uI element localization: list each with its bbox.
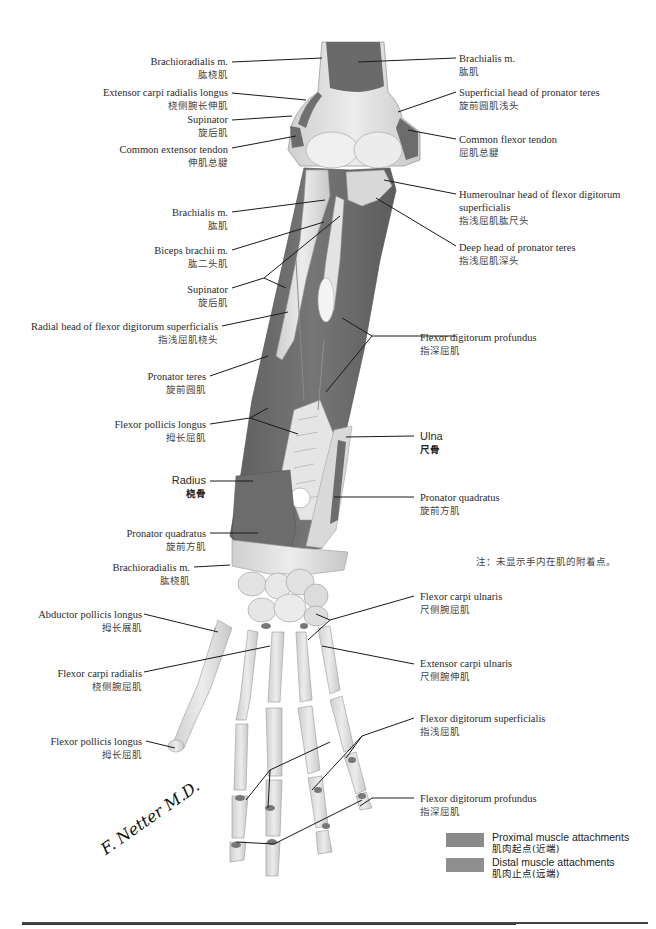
label-zh: 指浅屈肌	[420, 725, 545, 738]
label-en: Brachioradialis m.	[150, 55, 228, 68]
label-zh: 旋前方肌	[420, 504, 500, 517]
label-en: Supinator	[187, 283, 228, 296]
label-pronator-quadratus-right: Pronator quadratus 旋前方肌	[420, 491, 500, 517]
label-zh: 指浅屈肌桡头	[31, 333, 218, 346]
label-extensor-carpi-ulnaris: Extensor carpi ulnaris 尺侧腕伸肌	[420, 657, 512, 683]
label-zh: 伸肌总腱	[120, 156, 229, 169]
label-zh: 拇长屈肌	[114, 431, 206, 444]
label-en: Common flexor tendon	[459, 133, 557, 146]
label-en: Flexor digitorum superficialis	[420, 712, 545, 725]
label-flexor-pollicis-longus-hand: Flexor pollicis longus 拇长屈肌	[50, 735, 142, 761]
label-zh: 屈肌总腱	[459, 146, 557, 159]
label-extensor-carpi-radialis-longus: Extensor carpi radialis longus 桡侧腕长伸肌	[103, 86, 228, 112]
label-common-flexor-tendon: Common flexor tendon 屈肌总腱	[459, 133, 557, 159]
label-radius: Radius 桡骨	[172, 474, 206, 500]
legend-label-en: Proximal muscle attachments	[492, 831, 629, 843]
note-text: 注：未显示手内在肌的附着点。	[476, 554, 616, 568]
label-zh: 指浅屈肌深头	[459, 254, 576, 267]
label-radial-head-fds: Radial head of flexor digitorum superfic…	[31, 320, 218, 346]
label-superficial-head-pronator-teres: Superficial head of pronator teres 旋前圆肌浅…	[459, 86, 600, 112]
label-flexor-pollicis-longus-forearm: Flexor pollicis longus 拇长屈肌	[114, 418, 206, 444]
label-en: Brachialis m.	[459, 52, 515, 65]
label-en: Extensor carpi ulnaris	[420, 657, 512, 670]
label-en: Brachialis m.	[172, 206, 228, 219]
label-en: Radial head of flexor digitorum superfic…	[31, 320, 218, 333]
label-abductor-pollicis-longus: Abductor pollicis longus 拇长展肌	[38, 608, 142, 634]
label-en: Radius	[172, 474, 206, 487]
label-en: Superficial head of pronator teres	[459, 86, 600, 99]
label-humeroulnar-head-fds: Humeroulnar head of flexor digitorum sup…	[459, 188, 621, 227]
label-common-extensor-tendon: Common extensor tendon 伸肌总腱	[120, 143, 229, 169]
label-zh: 尺侧腕屈肌	[420, 603, 502, 616]
label-en: Flexor carpi radialis	[57, 667, 142, 680]
finger-attachment-marks	[231, 757, 366, 848]
label-en: Humeroulnar head of flexor digitorum	[459, 188, 621, 201]
legend-swatch-distal	[446, 858, 484, 872]
label-zh: 旋后肌	[187, 296, 228, 309]
label-deep-head-pronator-teres: Deep head of pronator teres 指浅屈肌深头	[459, 241, 576, 267]
label-en: Abductor pollicis longus	[38, 608, 142, 621]
label-zh: 肱二头肌	[154, 257, 228, 270]
label-biceps-brachii: Biceps brachii m. 肱二头肌	[154, 244, 228, 270]
label-zh: 肱肌	[172, 219, 228, 232]
label-brachialis-upper: Brachialis m. 肱肌	[459, 52, 515, 78]
hand-bones	[168, 620, 372, 876]
label-zh: 拇长展肌	[38, 621, 142, 634]
label-en: Ulna	[420, 430, 443, 443]
label-en: Extensor carpi radialis longus	[103, 86, 228, 99]
label-zh: 指深屈肌	[420, 805, 537, 818]
label-brachioradialis-upper: Brachioradialis m. 肱桡肌	[150, 55, 228, 81]
forearm-hand-illustration	[0, 0, 656, 929]
label-zh: 桡侧腕长伸肌	[103, 99, 228, 112]
label-brachialis-mid: Brachialis m. 肱肌	[172, 206, 228, 232]
label-zh: 尺骨	[420, 443, 443, 456]
footer-divider-right	[22, 922, 648, 924]
label-zh: 桡侧腕屈肌	[57, 680, 142, 693]
legend-label-zh: 肌肉止点(远端)	[492, 868, 615, 880]
legend: Proximal muscle attachments 肌肉起点(近端) Dis…	[446, 831, 629, 881]
label-flexor-digitorum-profundus-forearm: Flexor digitorum profundus 指深屈肌	[420, 331, 537, 357]
label-en: Flexor digitorum profundus	[420, 792, 537, 805]
label-en: Pronator teres	[147, 370, 206, 383]
label-en: Supinator	[187, 113, 228, 126]
label-en: Pronator quadratus	[420, 491, 500, 504]
label-zh: 肱肌	[459, 65, 515, 78]
legend-label-zh: 肌肉起点(近端)	[492, 843, 629, 855]
label-en: Common extensor tendon	[120, 143, 229, 156]
legend-item-proximal: Proximal muscle attachments 肌肉起点(近端)	[446, 831, 629, 855]
label-pronator-quadratus-left: Pronator quadratus 旋前方肌	[126, 527, 206, 553]
label-zh: 旋前圆肌	[147, 383, 206, 396]
label-en: Flexor pollicis longus	[114, 418, 206, 431]
label-ulna: Ulna 尺骨	[420, 430, 443, 456]
label-zh: 指浅屈肌肱尺头	[459, 214, 621, 227]
legend-label-en: Distal muscle attachments	[492, 856, 615, 868]
label-en-line2: superficialis	[459, 201, 621, 214]
label-en: Flexor pollicis longus	[50, 735, 142, 748]
label-en: Biceps brachii m.	[154, 244, 228, 257]
label-zh: 指深屈肌	[420, 344, 537, 357]
label-en: Deep head of pronator teres	[459, 241, 576, 254]
label-flexor-digitorum-profundus-hand: Flexor digitorum profundus 指深屈肌	[420, 792, 537, 818]
label-en: Flexor digitorum profundus	[420, 331, 537, 344]
label-zh: 肱桡肌	[112, 574, 190, 587]
label-supinator-mid: Supinator 旋后肌	[187, 283, 228, 309]
label-en: Pronator quadratus	[126, 527, 206, 540]
label-supinator-upper: Supinator 旋后肌	[187, 113, 228, 139]
label-zh: 肱桡肌	[150, 68, 228, 81]
humerus	[288, 42, 420, 168]
label-flexor-digitorum-superficialis-hand: Flexor digitorum superficialis 指浅屈肌	[420, 712, 545, 738]
label-zh: 旋后肌	[187, 126, 228, 139]
label-zh: 桡骨	[172, 487, 206, 500]
label-pronator-teres: Pronator teres 旋前圆肌	[147, 370, 206, 396]
label-flexor-carpi-radialis: Flexor carpi radialis 桡侧腕屈肌	[57, 667, 142, 693]
label-zh: 旋前圆肌浅头	[459, 99, 600, 112]
label-zh: 旋前方肌	[126, 540, 206, 553]
label-zh: 拇长屈肌	[50, 748, 142, 761]
legend-item-distal: Distal muscle attachments 肌肉止点(远端)	[446, 856, 629, 880]
legend-swatch-proximal	[446, 833, 484, 847]
label-en: Brachioradialis m.	[112, 561, 190, 574]
carpals	[214, 540, 348, 634]
label-en: Flexor carpi ulnaris	[420, 590, 502, 603]
label-zh: 尺侧腕伸肌	[420, 670, 512, 683]
label-flexor-carpi-ulnaris: Flexor carpi ulnaris 尺侧腕屈肌	[420, 590, 502, 616]
